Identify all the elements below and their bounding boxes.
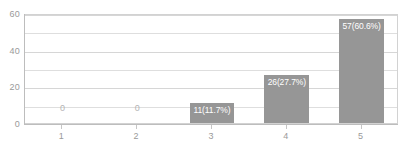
bar-value-label-4: 26(27.7%) [264, 77, 309, 87]
y-tick-label-40: 40 [0, 47, 20, 56]
x-tick-label-2: 2 [116, 131, 156, 141]
x-tick-mark-3 [211, 125, 212, 129]
x-tick-mark-4 [286, 125, 287, 129]
x-tick-mark-5 [361, 125, 362, 129]
x-tick-mark-1 [61, 125, 62, 129]
x-tick-label-5: 5 [341, 131, 381, 141]
bar-value-label-5: 57(60.6%) [339, 21, 384, 31]
bar-4[interactable]: 26(27.7%) [264, 75, 309, 123]
x-tick-label-4: 4 [266, 131, 306, 141]
y-tick-label-20: 20 [0, 83, 20, 92]
y-tick-label-60: 60 [0, 10, 20, 19]
x-tick-mark-2 [136, 125, 137, 129]
x-tick-label-1: 1 [41, 131, 81, 141]
plot-area: 11(11.7%)26(27.7%)57(60.6%) 00 [24, 14, 398, 124]
bar-value-label-3: 11(11.7%) [190, 105, 235, 115]
bar-5[interactable]: 57(60.6%) [339, 19, 384, 124]
bar-chart: 11(11.7%)26(27.7%)57(60.6%) 00 0204060 1… [0, 0, 406, 152]
bar-value-label-2: 0 [107, 103, 167, 113]
y-tick-label-0: 0 [0, 120, 20, 129]
y-axis-line [24, 14, 25, 125]
x-tick-label-3: 3 [191, 131, 231, 141]
bar-3[interactable]: 11(11.7%) [190, 103, 235, 123]
bar-value-label-1: 0 [32, 103, 92, 113]
gridline-60 [25, 15, 397, 16]
